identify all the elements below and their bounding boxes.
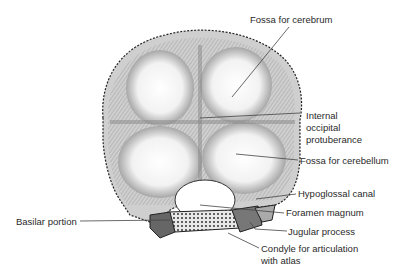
label-condyle-line2: with atlas <box>261 255 301 266</box>
label-foramen-magnum: Foramen magnum <box>286 207 364 218</box>
label-basilar-portion: Basilar portion <box>16 216 77 227</box>
label-fossa-cerebellum: Fossa for cerebellum <box>300 155 389 166</box>
label-internal-occipital-line3: protuberance <box>306 134 362 145</box>
label-internal-occipital-line1: Internal <box>306 110 338 121</box>
label-jugular-process: Jugular process <box>288 226 355 237</box>
label-condyle-line1: Condyle for articulation <box>261 243 358 254</box>
occipital-bone-diagram: Fossa for cerebrum Internal occipital pr… <box>0 0 400 270</box>
label-fossa-cerebrum: Fossa for cerebrum <box>250 14 332 25</box>
label-internal-occipital-line2: occipital <box>306 122 340 133</box>
label-hypoglossal-canal: Hypoglossal canal <box>298 188 375 199</box>
